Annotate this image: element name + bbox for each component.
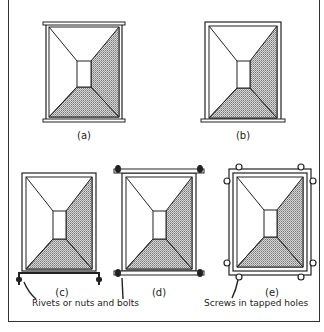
horn-drawing xyxy=(46,24,122,120)
panel-label: (c) xyxy=(55,287,68,298)
bolt-leader-line xyxy=(122,278,123,299)
top-flange xyxy=(43,22,125,25)
panel-e: (e) xyxy=(224,164,316,298)
top-flange xyxy=(114,169,204,173)
horn-drawing xyxy=(22,173,96,271)
panel-b: (b) xyxy=(201,22,285,141)
bottom-flange xyxy=(201,119,285,122)
panel-c: (c) xyxy=(16,173,102,298)
rivet-leader-line xyxy=(24,282,36,299)
rivets-caption: Rivets or nuts and bolts xyxy=(32,298,139,308)
bottom-channel xyxy=(19,273,99,285)
horn-drawing xyxy=(233,173,307,271)
panel-label: (a) xyxy=(77,130,91,141)
panel-label: (e) xyxy=(265,287,279,298)
panel-label: (b) xyxy=(236,130,250,141)
panel-a: (a) xyxy=(43,22,125,141)
figure-canvas: (a) (b) (c) xyxy=(0,0,324,332)
panel-d: (d) xyxy=(114,165,204,298)
horn-drawing xyxy=(122,173,196,271)
screw-leader-line xyxy=(232,280,238,298)
rivet-icon xyxy=(16,277,102,282)
panel-label: (d) xyxy=(152,287,166,298)
bottom-flange xyxy=(43,119,125,122)
screws-caption: Screws in tapped holes xyxy=(204,298,309,308)
horn-drawing xyxy=(205,22,281,120)
bottom-flange xyxy=(114,271,204,275)
